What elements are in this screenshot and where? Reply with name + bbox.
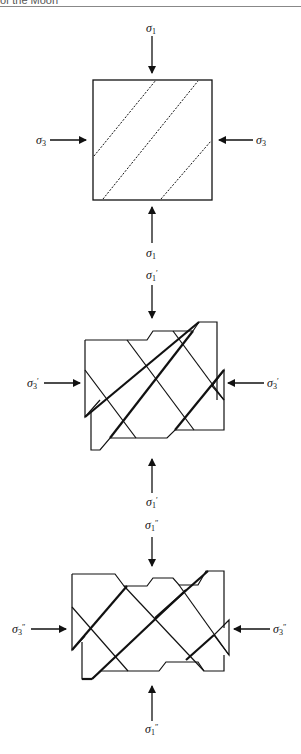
label-sigma3-right: σ3 <box>256 133 266 150</box>
label-sigma3-prime-left: σ3′ <box>27 376 39 393</box>
block-outline-top <box>72 571 224 628</box>
label-sigma1-top: σ1 <box>146 21 156 38</box>
label-sigma1-bottom: σ1 <box>146 246 156 263</box>
label-sigma1-prime-bottom: σ1′ <box>146 495 158 512</box>
panel-initial <box>50 36 253 243</box>
panel-first-deformation <box>44 285 264 493</box>
faults <box>72 571 229 679</box>
label-sigma3-left: σ3 <box>36 133 46 150</box>
panel-second-deformation <box>31 537 270 721</box>
label-sigma3-prime-right: σ3′ <box>267 376 279 393</box>
dashed-fractures <box>94 80 211 199</box>
label-sigma1-double-prime-bottom: σ1″ <box>145 722 158 739</box>
right-wedge <box>212 370 224 400</box>
stress-diagram-figure <box>0 0 301 754</box>
block-outline-bottom <box>82 642 224 679</box>
label-sigma1-prime-top: σ1′ <box>146 268 158 285</box>
label-sigma3-double-prime-left: σ3″ <box>12 622 25 639</box>
label-sigma3-double-prime-right: σ3″ <box>273 622 286 639</box>
label-sigma1-double-prime-top: σ1″ <box>145 518 158 535</box>
square-block <box>93 80 212 200</box>
